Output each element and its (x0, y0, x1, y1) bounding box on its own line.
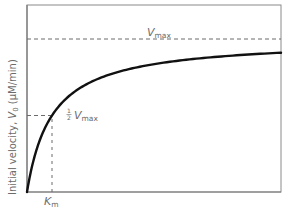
fraction-denominator: 2 (67, 114, 71, 121)
michaelis-menten-chart: Vmax 1 2 Vmax Km Initial velocity, V0 (μ… (0, 0, 288, 212)
y-axis-label: Initial velocity, V0 (μM/min) (7, 59, 20, 195)
fraction-numerator: 1 (67, 107, 71, 114)
half-vmax-label: 1 2 Vmax (67, 107, 99, 123)
km-label: Km (44, 195, 59, 209)
velocity-curve (27, 53, 281, 192)
vmax-label: Vmax (147, 26, 171, 40)
half-vmax-text: Vmax (74, 109, 98, 123)
